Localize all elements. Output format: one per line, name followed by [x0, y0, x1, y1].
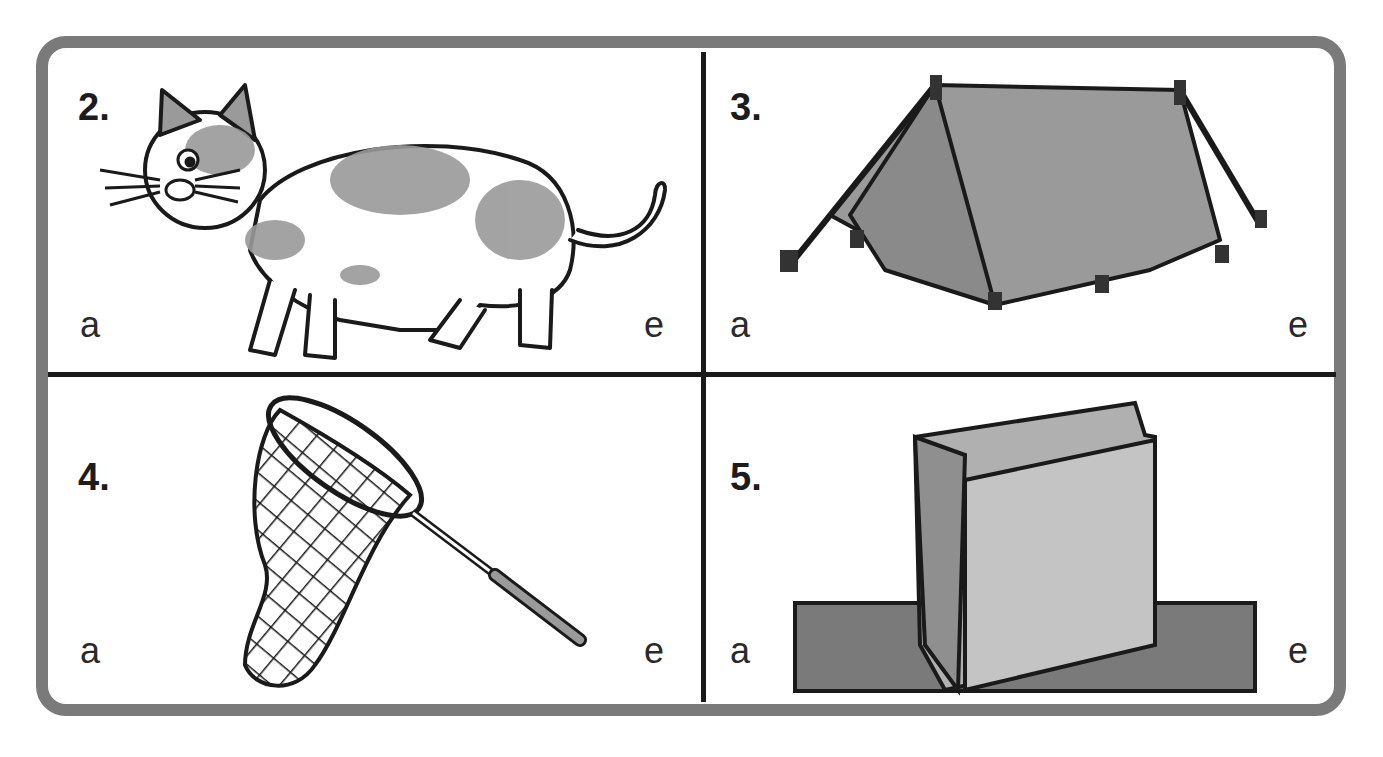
letter-a: a	[730, 630, 750, 672]
item-number: 5.	[730, 456, 762, 499]
letter-a: a	[730, 304, 750, 346]
letter-a: a	[80, 304, 100, 346]
letter-a: a	[80, 630, 100, 672]
letter-e: e	[644, 630, 664, 672]
paper-bag-icon	[790, 395, 1270, 695]
vertical-divider	[701, 52, 706, 702]
tent-icon	[770, 70, 1270, 320]
item-number: 3.	[730, 86, 762, 129]
letter-e: e	[1288, 630, 1308, 672]
horizontal-divider	[48, 372, 1336, 377]
cat-icon	[100, 80, 680, 370]
item-number: 4.	[78, 456, 110, 499]
letter-e: e	[644, 304, 664, 346]
letter-e: e	[1288, 304, 1308, 346]
butterfly-net-icon	[235, 395, 595, 695]
